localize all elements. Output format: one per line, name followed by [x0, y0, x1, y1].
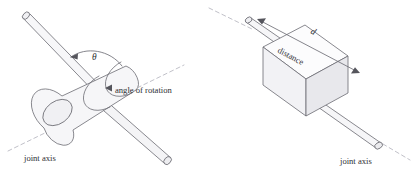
right-joint-axis-dashed-upper	[209, 8, 252, 29]
right-joint-axis-dashed-lower	[383, 144, 410, 160]
joint-types-diagram: θ angle of rotation joint axis	[0, 0, 415, 173]
angle-symbol-label: θ	[92, 52, 97, 62]
angle-of-rotation-label: angle of rotation	[115, 85, 172, 95]
left-joint-axis-label: joint axis	[23, 153, 56, 163]
figure-root: θ angle of rotation joint axis	[0, 0, 415, 173]
revolute-joint-group: θ angle of rotation joint axis	[8, 11, 184, 166]
prismatic-joint-group: d distance joint axis	[209, 8, 410, 166]
left-lower-rod	[96, 99, 173, 166]
right-joint-axis-label: joint axis	[339, 156, 372, 166]
distance-arrowhead-end	[351, 67, 360, 73]
